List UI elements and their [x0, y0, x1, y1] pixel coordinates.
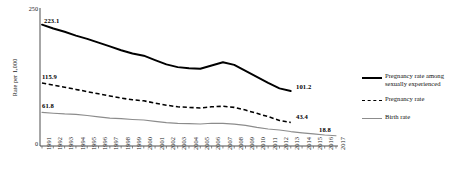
- x-tick-1997: 1997: [112, 137, 119, 150]
- x-tick-2013: 2013: [293, 137, 300, 150]
- x-tick-2016: 2016: [327, 137, 334, 150]
- series-line-pregnancy-sexually-experienced: [42, 25, 291, 91]
- x-tick-2009: 2009: [248, 137, 255, 150]
- value-label-101-2: 101.2: [296, 83, 311, 90]
- value-label-18-8: 18.8: [319, 126, 331, 133]
- value-label-115-9: 115.9: [42, 73, 57, 80]
- x-tick-2010: 2010: [259, 137, 266, 150]
- legend-item-birth-rate[interactable]: Birth rate: [362, 113, 468, 124]
- legend-swatch-gray-icon: [362, 114, 382, 124]
- value-label-61-8: 61.8: [42, 102, 54, 109]
- legend-swatch-dashed-icon: [362, 96, 382, 106]
- x-tick-2007: 2007: [226, 137, 233, 150]
- x-tick-1993: 1993: [67, 137, 74, 150]
- axis-lines: [40, 8, 338, 146]
- x-tick-2015: 2015: [316, 137, 323, 150]
- value-label-223-1: 223.1: [44, 17, 59, 24]
- series-line-pregnancy-rate: [42, 83, 291, 122]
- x-tick-1994: 1994: [79, 137, 86, 150]
- x-tick-1996: 1996: [101, 137, 108, 150]
- x-tick-1998: 1998: [124, 137, 131, 150]
- x-tick-2001: 2001: [158, 137, 165, 150]
- x-tick-1999: 1999: [135, 137, 142, 150]
- value-label-43-4: 43.4: [296, 113, 308, 120]
- chart-container: Rate per 1,000 250 0 1991199219931994199…: [0, 0, 468, 180]
- x-tick-2006: 2006: [214, 137, 221, 150]
- x-tick-2002: 2002: [169, 137, 176, 150]
- chart-legend: Pregnancy rate among sexually experience…: [362, 72, 468, 131]
- legend-label: Pregnancy rate: [385, 95, 424, 103]
- series-line-birth-rate: [42, 112, 336, 135]
- x-tick-2005: 2005: [203, 137, 210, 150]
- x-tick-2008: 2008: [237, 137, 244, 150]
- x-tick-2017: 2017: [339, 137, 346, 150]
- legend-label: Birth rate: [385, 113, 410, 121]
- legend-item-pregnancy-rate[interactable]: Pregnancy rate: [362, 95, 468, 106]
- x-tick-2000: 2000: [146, 137, 153, 150]
- x-tick-2004: 2004: [192, 137, 199, 150]
- x-tick-1995: 1995: [90, 137, 97, 150]
- legend-swatch-solid-icon: [362, 73, 382, 83]
- x-tick-1991: 1991: [45, 137, 52, 150]
- x-tick-1992: 1992: [56, 137, 63, 150]
- x-tick-2011: 2011: [271, 137, 278, 150]
- legend-item-pregnancy-sexually-experienced[interactable]: Pregnancy rate among sexually experience…: [362, 72, 468, 88]
- x-tick-2003: 2003: [180, 137, 187, 150]
- x-tick-2014: 2014: [305, 137, 312, 150]
- legend-label: Pregnancy rate among sexually experience…: [385, 72, 444, 88]
- x-tick-2012: 2012: [282, 137, 289, 150]
